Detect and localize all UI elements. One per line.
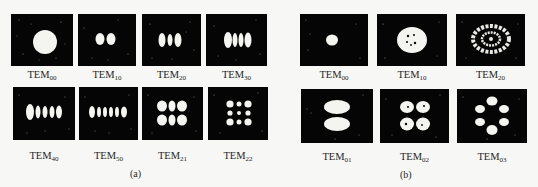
mode-label-a-tem21: TEM21 (142, 150, 203, 161)
beam-3x3-grid-icon (208, 87, 268, 140)
beam-double-ring-icon (456, 14, 525, 66)
mode-label-b-tem20: TEM20 (456, 69, 525, 80)
panel-a-caption: (a) (130, 168, 141, 179)
mode-image-b-tem02 (380, 89, 449, 143)
beam-5-lobes-icon (13, 87, 75, 140)
mode-label-b-tem00: TEM00 (300, 69, 368, 80)
mode-image-a-tem40 (13, 87, 75, 140)
mode-image-a-tem10 (78, 14, 136, 66)
beam-spot-icon (11, 14, 73, 66)
beam-spot-icon (300, 14, 368, 66)
mode-label-a-tem22: TEM22 (208, 150, 268, 161)
panel-b-caption: (b) (400, 169, 412, 180)
mode-label-a-tem10: TEM10 (78, 69, 136, 80)
beam-2-lobes-vertical-icon (301, 89, 373, 143)
mode-image-a-tem30 (206, 14, 267, 66)
mode-image-a-tem22 (208, 87, 268, 140)
mode-label-a-tem50: TEM50 (79, 150, 138, 161)
beam-6-petal-icon (457, 89, 527, 143)
mode-image-b-tem01 (301, 89, 373, 143)
beam-4-lobes-icon (206, 14, 267, 66)
mode-image-b-tem10 (377, 14, 447, 66)
mode-label-b-tem01: TEM01 (301, 151, 373, 162)
beam-ring-icon (377, 14, 447, 66)
beam-3-lobes-icon (142, 14, 201, 66)
mode-image-b-tem03 (457, 89, 527, 143)
mode-label-b-tem02: TEM02 (380, 151, 449, 162)
mode-image-a-tem00 (11, 14, 73, 66)
mode-label-a-tem30: TEM30 (206, 69, 267, 80)
beam-3x2-grid-icon (142, 87, 203, 140)
beam-6-lobes-icon (79, 87, 138, 140)
beam-4-petal-icon (380, 89, 449, 143)
beam-2-lobes-icon (78, 14, 136, 66)
mode-image-b-tem00 (300, 14, 368, 66)
mode-image-a-tem20 (142, 14, 201, 66)
mode-label-b-tem03: TEM03 (457, 151, 527, 162)
mode-image-b-tem20 (456, 14, 525, 66)
mode-image-a-tem21 (142, 87, 203, 140)
mode-label-a-tem40: TEM40 (13, 150, 75, 161)
mode-image-a-tem50 (79, 87, 138, 140)
mode-label-b-tem10: TEM10 (377, 69, 447, 80)
mode-label-a-tem20: TEM20 (142, 69, 201, 80)
mode-label-a-tem00: TEM00 (11, 69, 73, 80)
